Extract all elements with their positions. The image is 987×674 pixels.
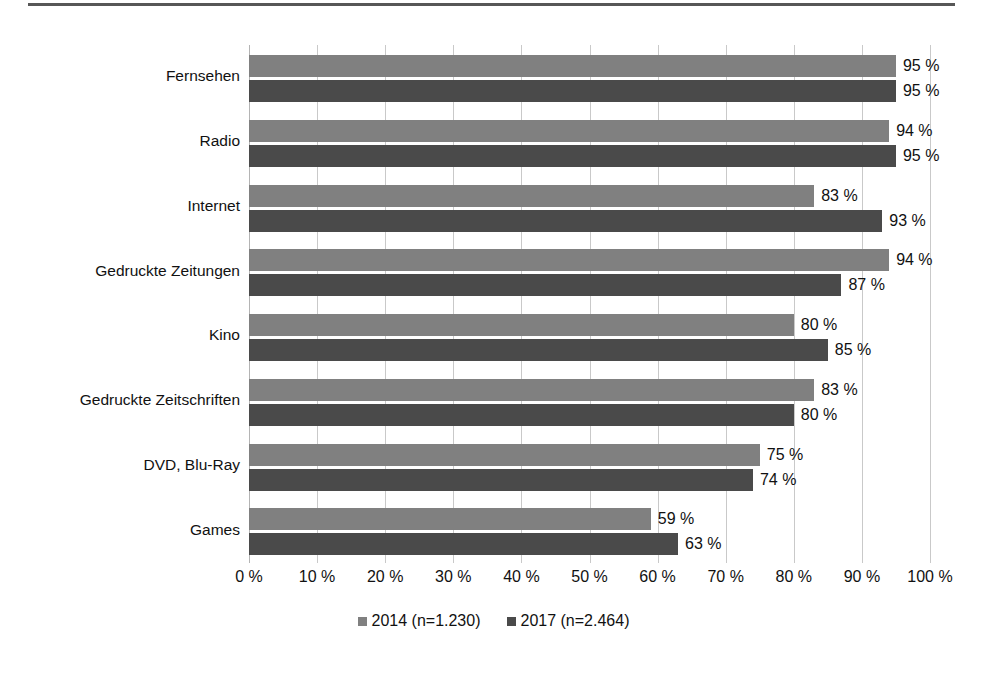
bar [249, 249, 889, 271]
bar-value-label: 93 % [882, 210, 925, 232]
bar [249, 185, 814, 207]
bar [249, 145, 896, 167]
bar [249, 404, 794, 426]
legend-label: 2014 (n=1.230) [372, 612, 481, 630]
bar-value-label: 83 % [814, 185, 857, 207]
x-axis-tick-labels: 0 %10 %20 %30 %40 %50 %60 %70 %80 %90 %1… [249, 568, 930, 594]
bar [249, 339, 828, 361]
x-tick-label: 0 % [235, 568, 263, 586]
bar-chart: FernsehenRadioInternetGedruckte Zeitunge… [0, 0, 987, 674]
bar [249, 314, 794, 336]
bar-group: 94 %95 % [249, 110, 930, 175]
bar-value-label: 95 % [896, 80, 939, 102]
bar-value-label: 94 % [889, 120, 932, 142]
category-label: Games [0, 521, 240, 539]
x-tick-label: 90 % [844, 568, 880, 586]
category-label: Gedruckte Zeitungen [0, 262, 240, 280]
category-label: Gedruckte Zeitschriften [0, 391, 240, 409]
bar [249, 533, 678, 555]
bar [249, 379, 814, 401]
bar [249, 210, 882, 232]
x-tick-label: 30 % [435, 568, 471, 586]
legend-item[interactable]: 2017 (n=2.464) [507, 612, 630, 630]
bar-value-label: 59 % [651, 508, 694, 530]
bar [249, 80, 896, 102]
x-tick-label: 100 % [907, 568, 952, 586]
bar-value-label: 85 % [828, 339, 871, 361]
bar-group: 95 %95 % [249, 45, 930, 110]
x-tick-label: 40 % [503, 568, 539, 586]
x-tick-label: 80 % [776, 568, 812, 586]
bar-group: 59 %63 % [249, 498, 930, 563]
bar-group: 75 %74 % [249, 434, 930, 499]
category-label: DVD, Blu-Ray [0, 456, 240, 474]
chart-legend: 2014 (n=1.230)2017 (n=2.464) [0, 612, 987, 630]
bar-value-label: 80 % [794, 314, 837, 336]
x-tick-label: 50 % [571, 568, 607, 586]
category-label: Kino [0, 326, 240, 344]
bar-value-label: 94 % [889, 249, 932, 271]
bar-value-label: 74 % [753, 469, 796, 491]
bar-value-label: 63 % [678, 533, 721, 555]
plot-area: 95 %95 %94 %95 %83 %93 %94 %87 %80 %85 %… [249, 45, 930, 563]
x-tick-label: 70 % [707, 568, 743, 586]
bar [249, 469, 753, 491]
bar-group: 80 %85 % [249, 304, 930, 369]
bar-value-label: 75 % [760, 444, 803, 466]
x-tick-label: 10 % [299, 568, 335, 586]
bar-value-label: 95 % [896, 55, 939, 77]
bar [249, 120, 889, 142]
category-label: Fernsehen [0, 67, 240, 85]
category-label: Internet [0, 197, 240, 215]
legend-item[interactable]: 2014 (n=1.230) [358, 612, 481, 630]
bar [249, 508, 651, 530]
x-tick-label: 20 % [367, 568, 403, 586]
bar-value-label: 80 % [794, 404, 837, 426]
bar-group: 94 %87 % [249, 239, 930, 304]
category-axis-labels: FernsehenRadioInternetGedruckte Zeitunge… [0, 45, 240, 563]
x-tick-label: 60 % [639, 568, 675, 586]
bar [249, 55, 896, 77]
legend-swatch-icon [358, 617, 367, 626]
legend-label: 2017 (n=2.464) [521, 612, 630, 630]
legend-swatch-icon [507, 617, 516, 626]
bar-group: 83 %93 % [249, 175, 930, 240]
bar [249, 444, 760, 466]
category-label: Radio [0, 132, 240, 150]
top-divider-rule [28, 3, 955, 6]
bar [249, 274, 841, 296]
bar-value-label: 83 % [814, 379, 857, 401]
bar-value-label: 87 % [841, 274, 884, 296]
bar-group: 83 %80 % [249, 369, 930, 434]
bar-value-label: 95 % [896, 145, 939, 167]
